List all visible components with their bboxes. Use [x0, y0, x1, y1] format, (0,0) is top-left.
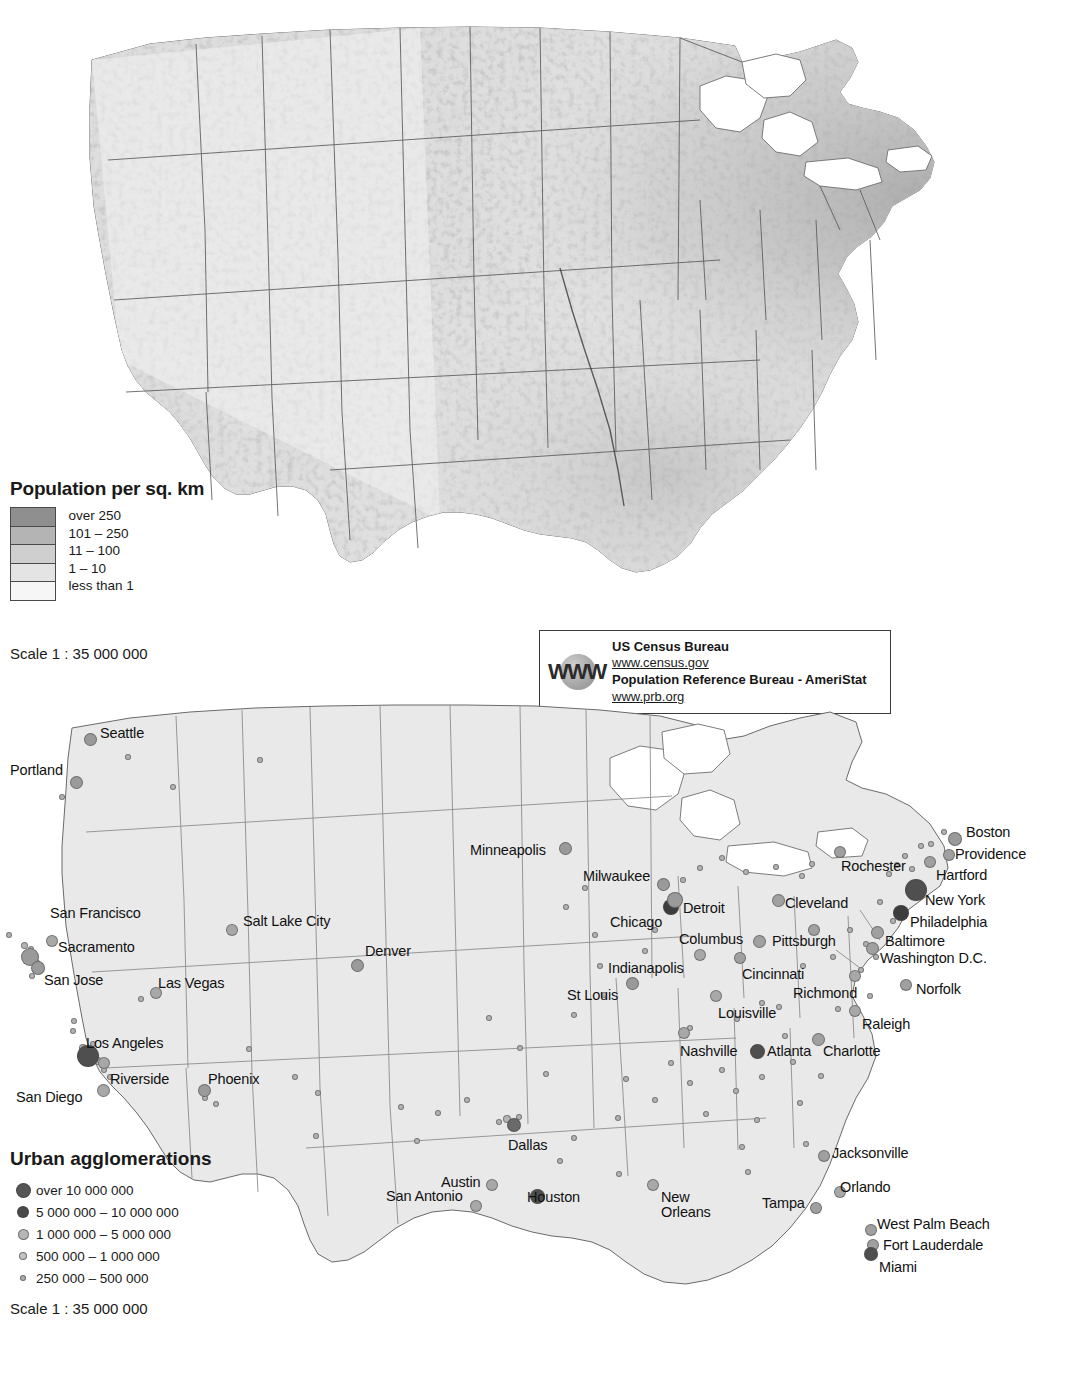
city-dot-sacramento[interactable]	[46, 935, 58, 947]
city-dot-washington-d-c-[interactable]	[866, 942, 879, 955]
minor-city-dot	[719, 1067, 725, 1073]
density-swatch-label-1: 101 – 250	[68, 525, 133, 543]
city-dot-philadelphia[interactable]	[893, 905, 909, 921]
city-dot-san-antonio[interactable]	[470, 1200, 482, 1212]
source-link-census[interactable]: www.census.gov	[612, 655, 884, 672]
city-dot-new-orleans[interactable]	[647, 1179, 659, 1191]
source-lines: US Census Bureau www.census.gov Populati…	[608, 639, 884, 706]
density-swatch-3	[11, 564, 55, 583]
minor-city-dot	[873, 954, 879, 960]
city-dot-riverside[interactable]	[98, 1057, 110, 1069]
minor-city-dot	[867, 993, 873, 999]
city-label-san-diego: San Diego	[16, 1090, 82, 1105]
minor-city-dot	[592, 932, 598, 938]
density-legend: Population per sq. km over 250101 – 2501…	[10, 478, 270, 601]
minor-city-dot	[697, 865, 703, 871]
city-label-new-orleans: NewOrleans	[661, 1190, 711, 1220]
city-dot-jacksonville[interactable]	[818, 1150, 830, 1162]
city-dot-rochester[interactable]	[834, 846, 846, 858]
city-dot-miami[interactable]	[864, 1247, 878, 1261]
minor-city-dot	[623, 1076, 629, 1082]
city-dot-norfolk[interactable]	[900, 979, 912, 991]
city-dot-baltimore[interactable]	[871, 926, 884, 939]
city-dot-west-palm-beach[interactable]	[865, 1224, 877, 1236]
minor-city-dot	[313, 1133, 319, 1139]
city-dot-columbus[interactable]	[753, 935, 766, 948]
city-label-columbus: Columbus	[679, 932, 743, 947]
minor-city-dot	[59, 794, 65, 800]
city-label-miami: Miami	[879, 1260, 917, 1275]
city-label-jacksonville: Jacksonville	[832, 1146, 908, 1161]
city-label-phoenix: Phoenix	[208, 1072, 259, 1087]
city-dot-louisville[interactable]	[710, 990, 722, 1002]
city-label-cleveland: Cleveland	[785, 896, 848, 911]
city-label-philadelphia: Philadelphia	[910, 915, 987, 930]
minor-city-dot	[877, 899, 883, 905]
city-dot-providence[interactable]	[943, 849, 955, 861]
city-dot-st-louis[interactable]	[626, 977, 639, 990]
urban-legend-dot-shape-2	[18, 1229, 29, 1240]
minor-city-dot	[809, 861, 815, 867]
city-dot-san-diego[interactable]	[97, 1084, 110, 1097]
density-scale-text: Scale 1 : 35 000 000	[10, 645, 148, 662]
urban-legend-dot-shape-0	[16, 1183, 31, 1198]
density-swatch-label-4: less than 1	[68, 577, 133, 595]
minor-city-dot	[398, 1104, 404, 1110]
city-dot-minneapolis[interactable]	[559, 842, 572, 855]
minor-city-dot	[464, 1097, 470, 1103]
city-dot-tampa[interactable]	[810, 1202, 822, 1214]
minor-city-dot	[517, 1045, 523, 1051]
city-dot-atlanta[interactable]	[750, 1044, 765, 1059]
minor-city-dot	[803, 1141, 809, 1147]
city-dot-new-york[interactable]	[905, 879, 927, 901]
city-dot-dallas[interactable]	[507, 1118, 521, 1132]
city-dot-nashville[interactable]	[678, 1027, 690, 1039]
minor-city-dot	[292, 1074, 298, 1080]
minor-city-dot	[818, 1073, 824, 1079]
minor-city-dot	[315, 1090, 321, 1096]
city-dot-milwaukee[interactable]	[657, 878, 670, 891]
density-swatch-2	[11, 545, 55, 564]
city-label-new-york: New York	[925, 893, 985, 908]
city-label-houston: Houston	[527, 1190, 580, 1205]
urban-legend: Urban agglomerations over 10 000 0005 00…	[10, 1148, 290, 1289]
minor-city-dot	[486, 1015, 492, 1021]
urban-legend-dot-0	[10, 1183, 36, 1198]
density-swatch-label-2: 11 – 100	[68, 542, 133, 560]
minor-city-dot	[687, 1080, 693, 1086]
city-dot-san-jose[interactable]	[31, 961, 45, 975]
minor-city-dot	[582, 885, 588, 891]
city-label-detroit: Detroit	[683, 901, 725, 916]
city-dot-cincinnati[interactable]	[734, 952, 746, 964]
city-dot-boston[interactable]	[948, 832, 962, 846]
city-dot-salt-lake-city[interactable]	[226, 924, 238, 936]
city-label-chicago: Chicago	[610, 915, 662, 930]
minor-city-dot	[790, 1059, 796, 1065]
city-label-charlotte: Charlotte	[823, 1044, 881, 1059]
density-swatches	[10, 507, 56, 601]
city-dot-denver[interactable]	[351, 959, 364, 972]
city-label-washington-d-c-: Washington D.C.	[880, 951, 987, 966]
urban-legend-row-3: 500 000 – 1 000 000	[10, 1245, 290, 1267]
city-dot-detroit[interactable]	[667, 892, 683, 908]
density-swatch-1	[11, 527, 55, 546]
city-dot-raleigh[interactable]	[849, 1005, 861, 1017]
city-dot-cleveland[interactable]	[772, 894, 785, 907]
minor-city-dot	[71, 1018, 77, 1024]
urban-legend-title: Urban agglomerations	[10, 1148, 290, 1170]
minor-city-dot	[776, 1004, 782, 1010]
city-dot-indianapolis[interactable]	[694, 949, 706, 961]
density-legend-title: Population per sq. km	[10, 478, 270, 500]
city-dot-seattle[interactable]	[84, 733, 97, 746]
city-dot-portland[interactable]	[70, 776, 83, 789]
density-swatch-4	[11, 582, 55, 600]
minor-city-dot	[743, 869, 749, 875]
city-dot-austin[interactable]	[486, 1179, 498, 1191]
city-label-louisville: Louisville	[718, 1006, 776, 1021]
city-label-denver: Denver	[365, 944, 411, 959]
minor-city-dot	[754, 1117, 760, 1123]
minor-city-dot	[642, 948, 648, 954]
city-dot-richmond[interactable]	[849, 970, 861, 982]
city-label-raleigh: Raleigh	[862, 1017, 910, 1032]
city-dot-hartford[interactable]	[924, 856, 936, 868]
